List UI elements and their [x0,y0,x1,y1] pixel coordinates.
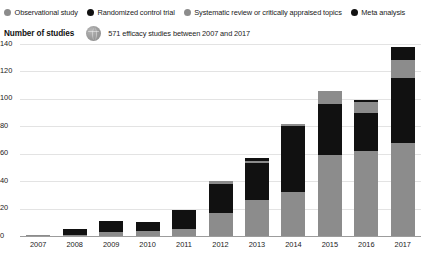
bar-series-container [20,44,421,236]
y-tick-label-60: 60 [0,149,17,157]
x-tick-label-2011: 2011 [166,240,202,250]
chart-root: Observational studyRandomized control tr… [0,0,426,257]
bar-group-2014[interactable] [281,124,305,236]
bar-segment [26,235,50,236]
globe-icon [86,26,101,41]
x-tick-label-2008: 2008 [56,240,92,250]
bar-group-2009[interactable] [99,221,123,236]
bar-segment [391,47,415,61]
bar-group-2012[interactable] [209,181,233,236]
x-tick-label-2014: 2014 [275,240,311,250]
bar-segment [391,60,415,78]
legend-dot-icon [184,9,191,16]
x-tick-label-2013: 2013 [239,240,275,250]
x-tick-label-2009: 2009 [93,240,129,250]
legend-item-2[interactable]: Systematic review or critically appraise… [184,8,342,17]
bar-group-2010[interactable] [136,222,160,236]
bar-segment [209,184,233,213]
bar-group-2011[interactable] [172,210,196,236]
bar-segment [172,229,196,236]
bar-group-2007[interactable] [26,235,50,236]
legend-label: Randomized control trial [97,8,174,17]
y-tick-label-40: 40 [0,177,17,185]
bar-group-2013[interactable] [245,158,269,236]
bar-group-2015[interactable] [318,91,342,236]
cropped-title [0,0,426,3]
x-tick-label-2007: 2007 [20,240,56,250]
bar-group-2016[interactable] [354,100,378,236]
bar-segment [354,151,378,236]
legend-label: Systematic review or critically appraise… [194,8,342,17]
bar-segment [318,91,342,105]
y-tick-label-100: 100 [0,94,17,102]
y-tick-label-140: 140 [0,40,17,48]
x-tick-label-2010: 2010 [129,240,165,250]
bar-segment [391,143,415,236]
bar-segment [63,235,87,236]
y-tick-label-120: 120 [0,67,17,75]
legend-item-1[interactable]: Randomized control trial [87,8,175,17]
x-tick-label-2012: 2012 [202,240,238,250]
bar-segment [318,104,342,155]
chart-legend: Observational studyRandomized control tr… [0,5,426,19]
legend-dot-icon [351,9,358,16]
x-tick-label-2016: 2016 [348,240,384,250]
bar-segment [209,213,233,236]
legend-item-0[interactable]: Observational study [4,8,78,17]
bar-segment [281,192,305,236]
bar-group-2008[interactable] [63,229,87,236]
x-tick-label-2015: 2015 [312,240,348,250]
legend-label: Meta analysis [361,8,405,17]
legend-dot-icon [87,9,94,16]
y-tick-label-0: 0 [0,232,17,240]
plot-area: 020406080100120140 [20,44,421,236]
bar-group-2017[interactable] [391,47,415,236]
bar-segment [391,78,415,142]
y-tick-label-20: 20 [0,204,17,212]
bar-segment [99,232,123,236]
subtitle-note: 571 efficacy studies between 2007 and 20… [108,29,250,38]
y-tick-label-80: 80 [0,122,17,130]
subtitle-row: Number of studies 571 efficacy studies b… [4,25,250,42]
legend-item-3[interactable]: Meta analysis [351,8,405,17]
gridline-0 [20,236,421,237]
bar-segment [318,155,342,236]
legend-dot-icon [4,9,11,16]
bar-segment [354,113,378,151]
bar-segment [99,221,123,232]
bar-segment [136,222,160,230]
y-axis-title: Number of studies [4,29,74,38]
x-axis-labels: 2007200820092010201120122013201420152016… [20,240,421,252]
bar-segment [245,200,269,236]
bar-segment [136,231,160,236]
x-tick-label-2017: 2017 [385,240,421,250]
bar-segment [281,126,305,192]
bar-segment [172,210,196,229]
bar-segment [245,163,269,200]
bar-segment [354,102,378,113]
legend-label: Observational study [15,8,78,17]
